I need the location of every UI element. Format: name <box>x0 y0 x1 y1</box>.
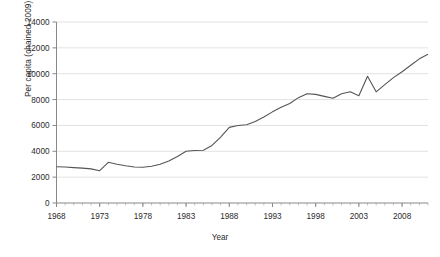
y-tick-label: 4000 <box>31 147 50 156</box>
y-tick-label: 8000 <box>31 96 50 105</box>
chart-container: Per capita (chained 2009) HK$ Year 02000… <box>0 0 440 257</box>
x-tick-label: 2003 <box>350 212 369 221</box>
line-chart-plot: 02000400060008000100001200014000 1968197… <box>0 0 440 257</box>
y-tick-label: 14000 <box>27 18 50 27</box>
x-tick-label: 1993 <box>263 212 282 221</box>
y-ticks-group <box>53 22 57 203</box>
y-tick-label: 6000 <box>31 121 50 130</box>
x-tick-label: 2008 <box>393 212 412 221</box>
x-tick-label: 1983 <box>177 212 196 221</box>
x-tick-label: 1978 <box>134 212 153 221</box>
x-tick-labels-group: 196819731978198319881993199820032008 <box>47 212 411 221</box>
y-tick-label: 2000 <box>31 173 50 182</box>
data-series-line <box>57 54 429 170</box>
y-tick-label: 0 <box>45 199 50 208</box>
y-tick-label: 10000 <box>27 70 50 79</box>
gridlines-group <box>57 22 429 177</box>
y-tick-label: 12000 <box>27 44 50 53</box>
x-tick-label: 1968 <box>47 212 66 221</box>
y-tick-labels-group: 02000400060008000100001200014000 <box>27 18 50 208</box>
x-tick-label: 1973 <box>91 212 110 221</box>
x-tick-label: 1988 <box>220 212 239 221</box>
x-tick-label: 1998 <box>307 212 326 221</box>
